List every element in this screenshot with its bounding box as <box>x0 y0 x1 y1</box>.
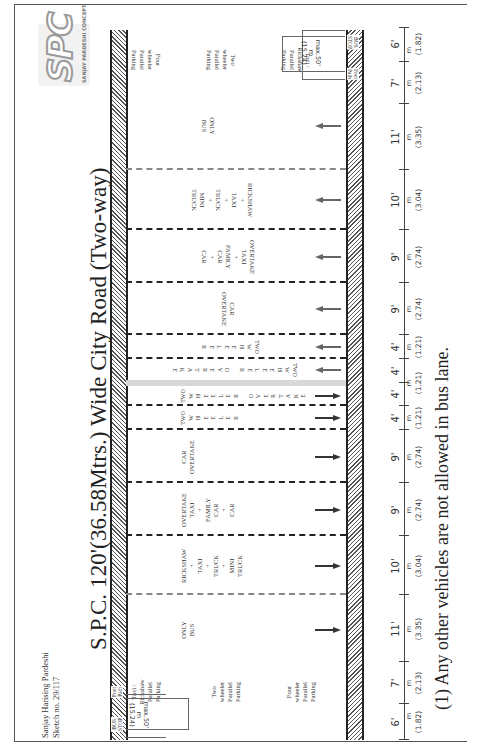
bus-stop-label-right: BUS STOP <box>347 35 359 50</box>
dim-ft-9: 4' <box>390 342 401 351</box>
dim-ft-6: 4' <box>390 413 401 422</box>
dim-tick <box>399 282 409 283</box>
direction-arrow-two-wheeler-overtake-right <box>315 367 341 373</box>
lane-divider-6 <box>126 357 346 359</box>
bus-bay-inner-dim-left: max.50' m (15.24) <box>128 702 149 728</box>
dim-unit-0: m <box>405 713 413 719</box>
dim-unit-12: m <box>405 197 413 203</box>
direction-arrow-bus-left <box>315 627 341 633</box>
lane-label-car-overtake-left: CAR OVERTAKE <box>180 440 196 474</box>
dim-unit-11: m <box>405 254 413 260</box>
dim-tick <box>399 27 409 28</box>
direction-arrow-rickshaw-right <box>315 197 341 203</box>
footnote: (1) Any other vehicles are not allowed i… <box>432 347 453 710</box>
dim-unit-7: m <box>405 380 413 386</box>
dim-m-2: (3.35) <box>414 618 423 641</box>
dim-unit-1: m <box>405 680 413 686</box>
dim-ft-10: 9' <box>390 304 401 313</box>
dim-ft-2: 11' <box>390 621 401 636</box>
lane-label-two-wheeler-left: TWO W H E E L E R <box>180 411 240 425</box>
bus-stop-label-left: BUS STOP <box>111 717 123 732</box>
dim-ft-8: 4' <box>390 366 401 375</box>
direction-arrow-taxi-right <box>315 254 341 260</box>
dim-unit-10: m <box>405 306 413 312</box>
dim-ft-4: 9' <box>390 505 401 514</box>
dim-tick <box>399 229 409 230</box>
dim-tick <box>399 429 409 430</box>
two-wheeler-parking-right: Two wheeler Parallel Parking <box>205 50 237 71</box>
four-wheeler-parking-right: Four wheeler Parallel Parking <box>130 50 162 71</box>
dim-tick <box>399 661 409 662</box>
lane-label-taxi-right: OVERTAKE TAXI + FAMILY CAR + CAR <box>200 240 256 274</box>
dim-tick <box>399 358 409 359</box>
logo-tagline: SANJAY PARDESHI CONCEPT <box>81 5 87 83</box>
author-name: Sanjay Harising Pardeshi <box>40 652 51 738</box>
lane-divider-8 <box>126 281 346 283</box>
direction-arrow-two-wheeler-overtake-left <box>315 393 341 399</box>
dim-m-13: (3.35) <box>414 126 423 149</box>
dim-tick <box>399 61 409 62</box>
dim-m-15: (1.82) <box>414 33 423 56</box>
dim-ft-11: 9' <box>390 252 401 261</box>
direction-arrow-taxi-left <box>315 507 341 513</box>
bottom-footpath-hatch <box>346 30 364 740</box>
foot-path-label-left: Foot Path <box>111 686 123 698</box>
lane-divider-1 <box>126 593 346 595</box>
road-sketch-sheet: Sanjay Harising Pardeshi Sketch no. 29/1… <box>0 0 488 750</box>
lane-label-two-wheeler-overtake-left: TWO W H E E L E R O V E R T A K E <box>180 389 308 403</box>
direction-arrow-two-wheeler-right <box>315 344 341 350</box>
direction-arrow-two-wheeler-left <box>315 415 341 421</box>
lane-label-rickshaw-left: RICKSHAW + TAXI + TRUCK + MINI TRUCK <box>180 549 244 583</box>
dim-m-7: (1.21) <box>414 372 423 395</box>
logo-mark: SPC <box>40 14 80 82</box>
lane-label-bus-left: ONLY BUS <box>180 621 196 638</box>
dim-tick <box>399 535 409 536</box>
dim-m-14: (2.13) <box>414 72 423 95</box>
direction-arrow-rickshaw-left <box>315 563 341 569</box>
sketch-number: Sketch no. 29/117 <box>51 652 62 738</box>
lane-label-bus-right: ONLY BUS <box>200 117 216 134</box>
dim-m-6: (1.21) <box>414 407 423 430</box>
lane-divider-2 <box>126 534 346 536</box>
lane-divider-9 <box>126 228 346 230</box>
page-title: S.P.C. 120'(36.58Mtrs.) Wide City Road (… <box>86 167 112 650</box>
dim-ft-5: 9' <box>390 452 401 461</box>
dim-unit-15: m <box>405 47 413 53</box>
dim-m-9: (1.21) <box>414 336 423 359</box>
median-strip <box>126 380 346 386</box>
dim-m-5: (2.74) <box>414 446 423 469</box>
four-wheeler-parking-left: Four wheeler Parallel Parking <box>285 682 317 703</box>
direction-arrow-car-overtake-left <box>315 454 341 460</box>
dim-ft-0: 6' <box>390 717 401 726</box>
dim-m-1: (2.13) <box>414 672 423 695</box>
dim-unit-13: m <box>405 134 413 140</box>
dim-tick <box>399 103 409 104</box>
dim-m-4: (2.74) <box>414 499 423 522</box>
dim-m-11: (2.74) <box>414 246 423 269</box>
dim-m-12: (3.04) <box>414 189 423 212</box>
lane-divider-3 <box>126 481 346 483</box>
dim-ft-14: 7' <box>390 78 401 87</box>
dim-tick <box>399 405 409 406</box>
lane-divider-4 <box>126 428 346 430</box>
direction-arrow-bus-right <box>315 123 341 129</box>
dim-tick <box>399 482 409 483</box>
dim-tick <box>399 594 409 595</box>
dim-ft-3: 10' <box>390 558 401 573</box>
lane-label-taxi-left: OVERTAKE TAXI + FAMILY CAR + CAR <box>180 493 236 527</box>
lane-label-two-wheeler-right: TWO W H E E L E R <box>200 340 260 354</box>
spc-logo: SPC SANJAY PARDESHI CONCEPT <box>38 24 90 86</box>
dim-ft-12: 10' <box>390 192 401 207</box>
dim-m-10: (2.74) <box>414 298 423 321</box>
dim-m-0: (1.82) <box>414 711 423 734</box>
dim-tick <box>399 334 409 335</box>
dim-ft-1: 7' <box>390 678 401 687</box>
dim-tick <box>399 703 409 704</box>
dim-ft-15: 6' <box>390 39 401 48</box>
dim-unit-14: m <box>405 80 413 86</box>
lane-divider-10 <box>126 168 346 170</box>
lane-label-car-overtake-right: CAR OVERTAKE <box>220 292 236 326</box>
dim-unit-9: m <box>405 344 413 350</box>
lane-divider-7 <box>126 333 346 335</box>
foot-path-label-right: Foot Path <box>347 68 359 80</box>
